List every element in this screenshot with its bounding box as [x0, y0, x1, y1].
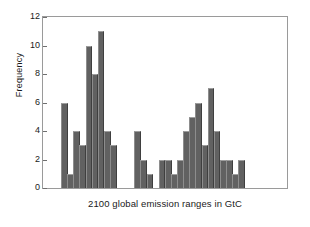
x-axis-label: 2100 global emission ranges in GtC	[42, 198, 288, 209]
y-axis-label: Frequency	[14, 30, 24, 120]
y-axis-tick-label: 2	[35, 154, 40, 164]
y-axis-tick-label: 12	[30, 11, 40, 21]
y-axis-tick-label: 10	[30, 40, 40, 50]
y-axis-tick-mark	[43, 131, 47, 132]
plot-area: 024681012	[42, 16, 288, 189]
y-axis-tick-mark	[43, 103, 47, 104]
y-axis-tick-mark	[43, 160, 47, 161]
y-axis-tick-mark	[43, 74, 47, 75]
bars-container	[43, 17, 287, 188]
histogram-bar	[110, 145, 117, 188]
histogram-figure: Frequency 024681012 2100 global emission…	[0, 0, 310, 227]
y-axis-tick-label: 0	[35, 182, 40, 192]
y-axis-tick-label: 8	[35, 68, 40, 78]
y-axis-tick-mark	[43, 17, 47, 18]
histogram-bar	[238, 160, 245, 189]
y-axis-tick-mark	[43, 188, 47, 189]
y-axis-tick-label: 4	[35, 125, 40, 135]
y-axis-tick-label: 6	[35, 97, 40, 107]
histogram-bar	[147, 174, 154, 188]
y-axis-tick-mark	[43, 46, 47, 47]
